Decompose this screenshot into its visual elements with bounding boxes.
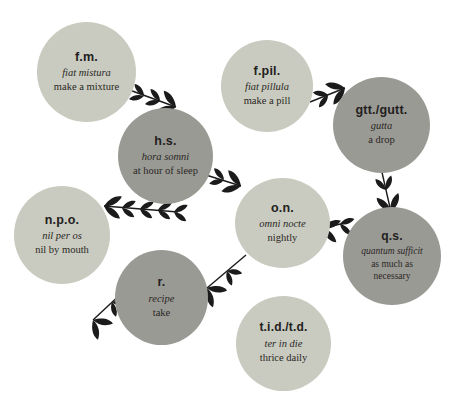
node-tid[interactable]: t.i.d./t.d. ter in die thrice daily xyxy=(236,296,331,391)
node-fm[interactable]: f.m. fiat mistura make a mixture xyxy=(37,22,136,122)
node-on-english: nightly xyxy=(268,231,298,245)
node-qs-english-line1: as much as xyxy=(371,258,413,270)
node-hs-latin: hora somni xyxy=(142,150,190,164)
node-fpil-abbr: f.pil. xyxy=(254,64,281,78)
node-on-latin: omni nocte xyxy=(259,217,305,231)
node-qs-abbr: q.s. xyxy=(381,230,402,244)
node-qs[interactable]: q.s. quantum sufficit as much as necessa… xyxy=(343,207,441,305)
node-fm-latin: fiat mistura xyxy=(62,66,111,80)
node-qs-english-line2: necessary xyxy=(374,270,411,282)
node-npo-latin: nil per os xyxy=(42,229,82,243)
node-npo[interactable]: n.p.o. nil per os nil by mouth xyxy=(14,186,110,284)
diagram-canvas: f.m. fiat mistura make a mixture f.pil. … xyxy=(0,0,455,408)
node-npo-english: nil by mouth xyxy=(35,243,89,257)
node-fm-english: make a mixture xyxy=(54,80,119,94)
node-gtt[interactable]: gtt./gutt. gutta a drop xyxy=(333,77,430,173)
node-r-english: take xyxy=(153,306,171,320)
node-gtt-abbr: gtt./gutt. xyxy=(356,103,408,117)
node-fpil-english: make a pill xyxy=(244,94,291,108)
node-gtt-english: a drop xyxy=(368,133,395,147)
node-on[interactable]: o.n. omni nocte nightly xyxy=(235,178,330,268)
node-gtt-latin: gutta xyxy=(371,119,393,133)
node-r[interactable]: r. recipe take xyxy=(115,250,208,345)
node-fm-abbr: f.m. xyxy=(75,50,98,64)
node-hs[interactable]: h.s. hora somni at hour of sleep xyxy=(118,108,213,204)
node-hs-english: at hour of sleep xyxy=(133,164,198,178)
node-fpil[interactable]: f.pil. fiat pillula make a pill xyxy=(221,40,313,132)
node-r-abbr: r. xyxy=(157,275,165,289)
node-tid-latin: ter in die xyxy=(265,337,303,351)
node-r-latin: recipe xyxy=(149,292,175,306)
node-on-abbr: o.n. xyxy=(271,201,294,215)
node-tid-english: thrice daily xyxy=(260,351,308,365)
connector-hs-to-on xyxy=(206,168,244,196)
node-fpil-latin: fiat pillula xyxy=(245,80,289,94)
node-qs-latin: quantum sufficit xyxy=(361,245,423,257)
node-tid-abbr: t.i.d./t.d. xyxy=(259,321,307,335)
node-npo-abbr: n.p.o. xyxy=(45,213,80,227)
node-hs-abbr: h.s. xyxy=(154,134,176,148)
